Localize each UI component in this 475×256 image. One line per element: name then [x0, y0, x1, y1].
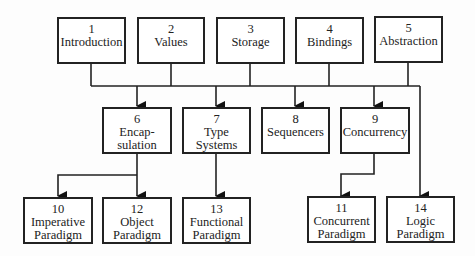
- node-label: Introduction: [61, 36, 123, 49]
- node-12-object-paradigm: 12 Object Paradigm: [102, 197, 172, 244]
- node-10-imperative-paradigm: 10 Imperative Paradigm: [23, 197, 93, 244]
- node-label: Paradigm: [397, 228, 445, 241]
- node-11-concurrent-paradigm: 11 Concurrent Paradigm: [307, 196, 376, 243]
- node-label: Sequencers: [267, 126, 324, 139]
- node-label: Abstraction: [379, 35, 437, 48]
- node-label: Paradigm: [193, 229, 241, 242]
- node-8-sequencers: 8 Sequencers: [261, 107, 330, 154]
- node-1-introduction: 1 Introduction: [57, 17, 126, 64]
- node-label: Systems: [196, 139, 238, 152]
- node-5-abstraction: 5 Abstraction: [374, 16, 443, 63]
- node-13-functional-paradigm: 13 Functional Paradigm: [182, 197, 251, 244]
- node-label: Bindings: [307, 36, 352, 49]
- node-label: sulation: [117, 139, 157, 152]
- node-14-logic-paradigm: 14 Logic Paradigm: [386, 196, 455, 243]
- node-label: Concurrency: [343, 126, 408, 139]
- node-label: Values: [154, 36, 187, 49]
- node-label: Paradigm: [34, 229, 82, 242]
- node-label: Storage: [231, 36, 269, 49]
- node-label: Paradigm: [113, 229, 161, 242]
- node-4-bindings: 4 Bindings: [295, 17, 364, 64]
- node-7-type-systems: 7 Type Systems: [182, 107, 251, 154]
- node-3-storage: 3 Storage: [216, 17, 285, 64]
- node-label: Paradigm: [318, 228, 366, 241]
- node-6-encapsulation: 6 Encap- sulation: [102, 107, 172, 154]
- node-9-concurrency: 9 Concurrency: [340, 107, 410, 154]
- node-2-values: 2 Values: [137, 17, 205, 64]
